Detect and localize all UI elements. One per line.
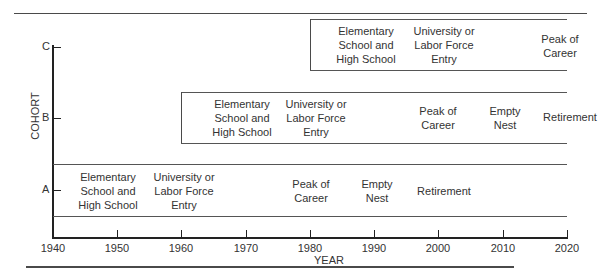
- cohort-b-stage-retirement: Retirement: [532, 110, 608, 124]
- cohort-c-stage-school: Elementary School and High School: [326, 24, 406, 66]
- x-tick-label: 2010: [483, 242, 523, 254]
- cohort-a-bottom-border: [53, 216, 567, 217]
- cohort-b-stage-university: University or Labor Force Entry: [276, 97, 356, 139]
- cohort-c-top-border: [310, 19, 567, 20]
- cohort-b-stage-peak: Peak of Career: [408, 104, 468, 132]
- cohort-c-left-border: [310, 19, 311, 70]
- cohort-c-stage-peak: Peak of Career: [530, 32, 590, 60]
- x-tick-label: 2020: [547, 242, 587, 254]
- cohort-b-bottom-border: [181, 143, 567, 144]
- y-tick-b: [53, 118, 61, 119]
- y-axis-title: COHORT: [29, 91, 41, 141]
- cohort-a-stage-empty-nest: Empty Nest: [352, 177, 402, 205]
- cohort-a-stage-university: University or Labor Force Entry: [144, 170, 224, 212]
- top-rule: [14, 13, 587, 14]
- cohort-a-stage-retirement: Retirement: [406, 184, 482, 198]
- y-tick-label-b: B: [42, 111, 49, 123]
- cohort-c-bottom-border: [310, 70, 567, 71]
- x-tick-label: 1940: [33, 242, 73, 254]
- cohort-b-stage-school: Elementary School and High School: [202, 97, 282, 139]
- cohort-a-stage-peak: Peak of Career: [281, 177, 341, 205]
- y-axis: [52, 45, 54, 238]
- x-tick: [117, 230, 118, 238]
- cohort-a-top-border: [53, 164, 567, 165]
- x-tick: [310, 230, 311, 238]
- y-tick-label-c: C: [42, 40, 50, 52]
- x-tick-label: 1970: [226, 242, 266, 254]
- y-tick-label-a: A: [42, 183, 49, 195]
- x-tick: [567, 230, 568, 238]
- cohort-b-top-border: [181, 92, 567, 93]
- x-tick-label: 2000: [418, 242, 458, 254]
- cohort-a-stage-school: Elementary School and High School: [68, 170, 148, 212]
- x-tick: [438, 230, 439, 238]
- x-tick-label: 1990: [354, 242, 394, 254]
- x-tick-label: 1960: [161, 242, 201, 254]
- y-tick-c: [53, 47, 61, 48]
- cohort-b-stage-empty-nest: Empty Nest: [480, 104, 530, 132]
- x-tick: [503, 230, 504, 238]
- x-tick: [246, 230, 247, 238]
- bottom-rule: [26, 266, 514, 268]
- x-tick-label: 1950: [97, 242, 137, 254]
- x-tick: [374, 230, 375, 238]
- y-tick-a: [53, 190, 61, 191]
- x-tick-label: 1980: [290, 242, 330, 254]
- cohort-c-stage-university: University or Labor Force Entry: [404, 24, 484, 66]
- x-axis-title: YEAR: [314, 254, 344, 266]
- cohort-b-left-border: [181, 92, 182, 143]
- x-tick: [181, 230, 182, 238]
